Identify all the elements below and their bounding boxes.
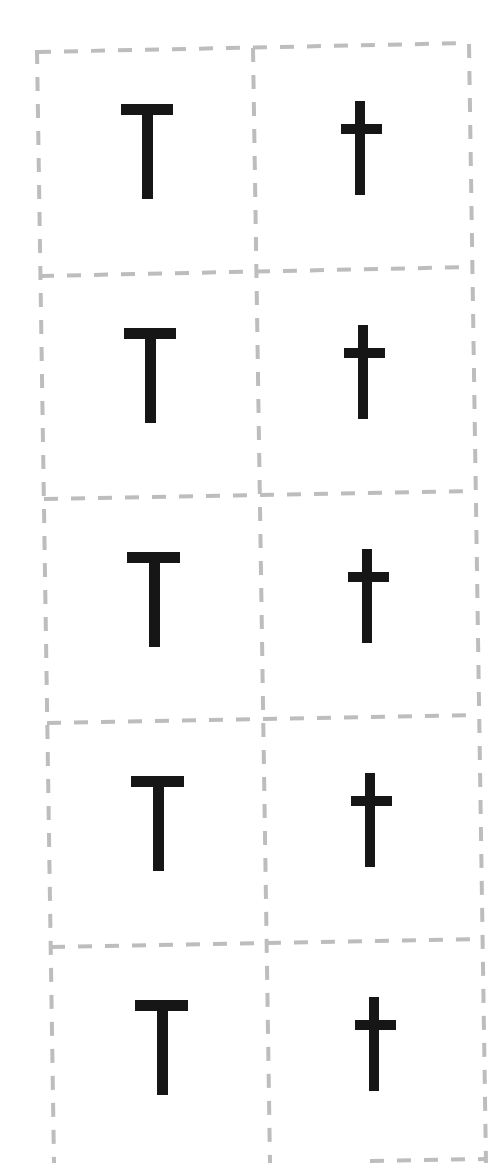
right-cut-line xyxy=(469,44,486,1163)
card-upper-t xyxy=(135,1000,188,1095)
card-upper-t xyxy=(127,552,180,647)
left-cut-line xyxy=(37,50,54,1163)
card-lower-t xyxy=(348,549,389,643)
bottom-cut-line xyxy=(370,1159,486,1161)
card-upper-t xyxy=(124,328,176,423)
card-upper-t xyxy=(121,104,173,199)
card-lower-t xyxy=(344,325,385,419)
card-lower-t xyxy=(351,773,392,867)
row-cut-line-3 xyxy=(47,715,479,723)
card-upper-t xyxy=(131,776,184,871)
card-lower-t xyxy=(341,101,382,195)
center-cut-line xyxy=(253,48,270,1163)
cut-grid xyxy=(0,0,494,1163)
card-lower-t xyxy=(355,997,396,1091)
